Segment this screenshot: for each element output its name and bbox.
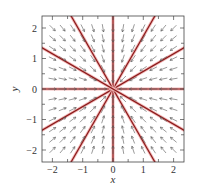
vector-arrow	[121, 126, 124, 134]
vector-arrow	[149, 78, 157, 81]
vector-arrow	[140, 117, 146, 123]
vector-arrow	[131, 35, 134, 42]
y-tick-label: 0	[32, 84, 37, 95]
vector-arrow	[81, 146, 85, 153]
trajectory-lines	[0, 0, 197, 186]
vector-arrow	[102, 44, 105, 52]
vector-arrow	[170, 137, 176, 142]
vector-arrow	[49, 127, 56, 131]
vector-arrow	[130, 106, 136, 112]
vector-arrow	[160, 127, 166, 132]
y-tick-label: 1	[32, 53, 37, 64]
vector-arrow	[161, 147, 166, 153]
y-tick-labels: −2−1012	[26, 23, 37, 156]
vector-arrow	[49, 98, 57, 101]
vector-arrow	[59, 67, 66, 70]
vector-arrow	[102, 34, 105, 42]
vector-arrow	[49, 78, 57, 81]
vector-arrow	[151, 46, 157, 52]
vector-arrow	[160, 98, 168, 101]
vector-arrow	[139, 97, 147, 100]
vector-arrow	[59, 78, 67, 81]
vector-arrow	[160, 46, 166, 51]
vector-arrow	[149, 97, 157, 100]
phase-portrait-chart: −2−1012 −2−1012 x y	[0, 0, 197, 186]
vector-arrow	[151, 25, 155, 32]
vector-arrow	[102, 116, 105, 124]
vector-arrow	[140, 56, 146, 62]
vector-arrow	[59, 98, 67, 101]
vector-arrow	[69, 97, 77, 100]
vector-arrow	[151, 127, 157, 133]
vector-arrow	[121, 116, 124, 124]
vector-arrow	[59, 46, 65, 51]
vector-arrow	[170, 108, 178, 111]
vector-arrow	[50, 25, 56, 31]
vector-arrow	[161, 137, 167, 143]
vector-arrow	[70, 46, 76, 52]
vector-arrow	[60, 137, 66, 143]
vector-arrow	[102, 55, 105, 63]
vector-arrow	[90, 66, 96, 72]
vector-arrow	[49, 137, 55, 142]
vector-arrow	[102, 146, 105, 154]
vector-arrow	[170, 127, 177, 131]
vector-arrow	[49, 118, 56, 122]
vector-arrow	[150, 56, 156, 61]
vector-arrow	[121, 136, 124, 144]
vector-arrow	[170, 46, 177, 50]
vector-arrow	[90, 106, 96, 112]
vector-arrow	[79, 97, 87, 100]
vector-arrow	[131, 146, 134, 154]
x-tick-label: 1	[141, 164, 146, 175]
vector-arrow	[170, 57, 177, 61]
vector-arrow	[69, 117, 75, 122]
vector-arrow	[121, 44, 124, 52]
vector-arrow	[70, 137, 75, 143]
vector-arrow	[49, 108, 57, 111]
vector-arrow	[60, 25, 65, 31]
vector-arrow	[151, 147, 155, 154]
y-tick-label: −2	[26, 145, 37, 156]
vector-arrow	[161, 25, 166, 31]
vector-arrow	[160, 67, 167, 70]
vector-arrow	[59, 107, 66, 110]
vector-arrow	[141, 146, 145, 153]
vector-arrow	[121, 55, 124, 63]
y-tick-label: −1	[26, 114, 37, 125]
vector-arrow	[141, 24, 145, 31]
vector-arrow	[171, 25, 177, 31]
vector-arrow	[160, 78, 168, 81]
vector-arrow	[102, 24, 105, 32]
vector-arrow	[122, 146, 125, 154]
vector-arrow	[49, 57, 56, 61]
y-axis-label: y	[8, 86, 20, 92]
vector-arrow	[102, 136, 105, 144]
vector-arrow	[130, 66, 136, 72]
vector-arrow	[69, 78, 77, 81]
vector-arrow	[70, 147, 74, 154]
vector-arrow	[102, 126, 105, 134]
vector-arrow	[49, 36, 55, 41]
vector-arrow	[160, 107, 167, 110]
vector-arrow	[70, 35, 75, 41]
vector-arrow	[79, 78, 87, 81]
vector-arrow	[170, 78, 178, 81]
vector-arrow	[91, 35, 94, 42]
vector-arrow	[80, 117, 86, 123]
vector-arrow	[151, 137, 156, 143]
vector-arrow	[80, 126, 85, 132]
vector-arrow	[60, 35, 66, 41]
y-tick-label: 2	[32, 23, 37, 34]
vector-arrow	[70, 127, 76, 133]
vector-arrow	[171, 147, 177, 153]
vector-arrow	[80, 56, 86, 62]
x-axis-label: x	[110, 173, 116, 185]
vector-arrow	[49, 46, 56, 50]
vector-arrow	[121, 34, 124, 42]
vector-arrow	[170, 118, 177, 122]
vector-arrow	[131, 24, 134, 32]
vector-arrow	[69, 56, 75, 61]
vector-arrow	[91, 136, 94, 143]
vector-arrow	[131, 136, 134, 143]
